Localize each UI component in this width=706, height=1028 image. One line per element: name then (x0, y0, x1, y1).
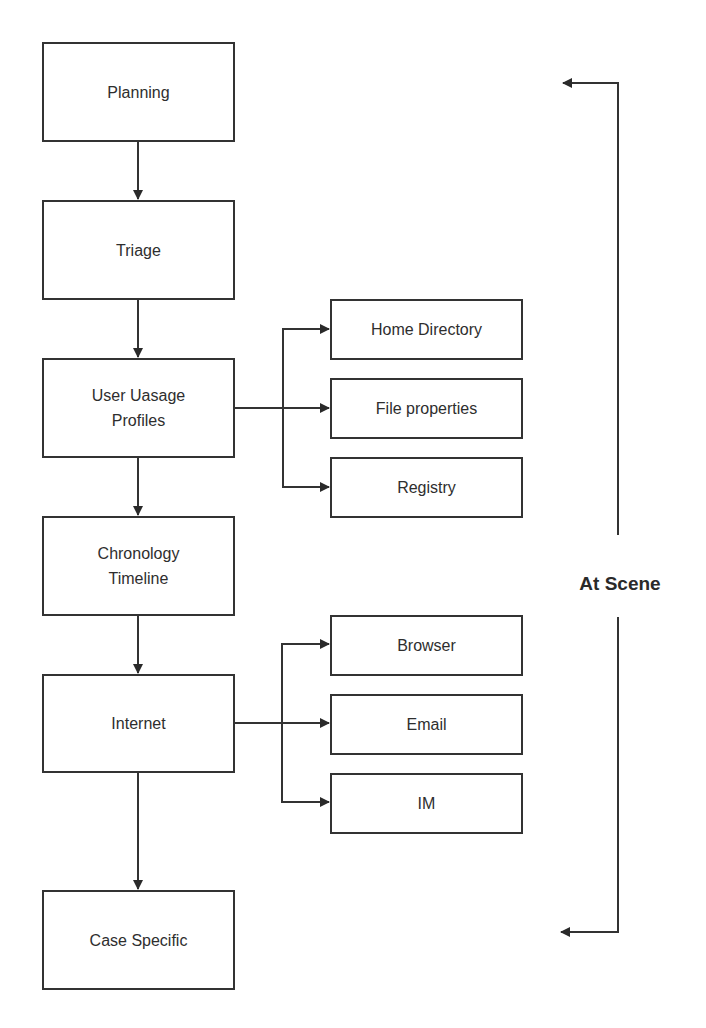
step-triage-label: Triage (116, 238, 161, 263)
branch-registry-label: Registry (397, 475, 456, 500)
branch-browser-label: Browser (397, 633, 456, 658)
branch-email: Email (330, 694, 523, 755)
step-user-usage-line2: Profiles (92, 408, 185, 433)
branch-im-label: IM (418, 791, 436, 816)
step-internet: Internet (42, 674, 235, 773)
step-planning: Planning (42, 42, 235, 142)
step-internet-label: Internet (111, 711, 165, 736)
branch-file-properties-label: File properties (376, 396, 477, 421)
at-scene-label: At Scene (560, 573, 680, 595)
step-user-usage-profiles: User Uasage Profiles (42, 358, 235, 458)
step-chronology-line2: Timeline (98, 566, 180, 591)
branch-registry: Registry (330, 457, 523, 518)
step-case-specific-label: Case Specific (90, 928, 188, 953)
branch-home-directory-label: Home Directory (371, 317, 482, 342)
step-case-specific: Case Specific (42, 890, 235, 990)
branch-browser: Browser (330, 615, 523, 676)
step-triage: Triage (42, 200, 235, 300)
branch-file-properties: File properties (330, 378, 523, 439)
step-planning-label: Planning (107, 80, 169, 105)
branch-email-label: Email (406, 712, 446, 737)
scope-bracket-bottom (561, 617, 618, 932)
scope-bracket-top (563, 83, 618, 535)
branch-im: IM (330, 773, 523, 834)
step-user-usage-line1: User Uasage (92, 383, 185, 408)
step-chronology-timeline: Chronology Timeline (42, 516, 235, 616)
branch-home-directory: Home Directory (330, 299, 523, 360)
step-chronology-line1: Chronology (98, 541, 180, 566)
